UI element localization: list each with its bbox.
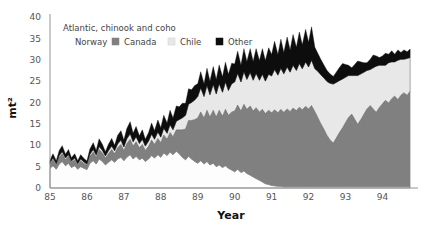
y-tick-label: 25: [30, 76, 41, 86]
stacked-area-chart: 0510152025303540 85868788899091929394 mt…: [0, 0, 428, 235]
x-tick-label: 91: [266, 192, 277, 202]
y-tick-label: 10: [30, 140, 42, 150]
x-tick-label: 86: [81, 192, 93, 202]
legend-swatch-other: [216, 38, 223, 45]
area-series-group: [50, 27, 410, 188]
x-tick-label: 93: [340, 192, 351, 202]
x-tick-label: 92: [303, 192, 314, 202]
chart-legend: Atlantic, chinook and cohoNorwayCanadaCh…: [63, 23, 253, 47]
x-axis-title: Year: [216, 209, 245, 222]
legend-title: Atlantic, chinook and coho: [63, 23, 176, 33]
x-axis-tick-group: 85868788899091929394: [44, 192, 388, 202]
legend-swatch-canada: [112, 38, 119, 45]
x-tick-label: 85: [44, 192, 55, 202]
y-tick-label: 20: [30, 98, 42, 108]
legend-label-norway: Norway: [75, 37, 107, 47]
y-axis-title: mt²: [6, 97, 19, 119]
chart-canvas: 0510152025303540 85868788899091929394 mt…: [0, 0, 428, 235]
legend-label-canada: Canada: [124, 37, 156, 47]
y-tick-label: 0: [35, 183, 41, 193]
x-tick-label: 89: [192, 192, 204, 202]
legend-label-other: Other: [228, 37, 253, 47]
legend-label-chile: Chile: [180, 37, 201, 47]
x-tick-label: 88: [155, 192, 167, 202]
y-tick-label: 35: [30, 34, 41, 44]
y-tick-label: 30: [30, 55, 42, 65]
x-tick-label: 90: [229, 192, 241, 202]
y-tick-label: 40: [30, 12, 42, 22]
y-tick-label: 15: [30, 119, 41, 129]
y-axis-tick-group: 0510152025303540: [30, 12, 42, 193]
x-tick-label: 94: [377, 192, 389, 202]
y-tick-label: 5: [35, 162, 41, 172]
legend-swatch-chile: [168, 38, 175, 45]
x-tick-label: 87: [118, 192, 129, 202]
